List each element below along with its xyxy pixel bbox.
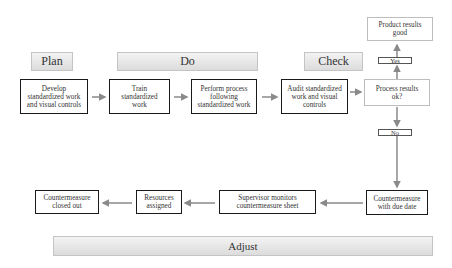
step-audit-label: Audit standardized work and visual contr… bbox=[287, 85, 342, 109]
step-perform-label: Perform process following standardized w… bbox=[194, 85, 254, 109]
decision-process-results-label: Process results ok? bbox=[373, 85, 421, 101]
outcome-product-results-good: Product results good bbox=[367, 17, 433, 41]
outcome-product-results-label: Product results good bbox=[376, 21, 424, 37]
step-resources-assigned-label: Resources assigned bbox=[139, 194, 179, 210]
step-countermeasure-due-date-label: Countermeasure with due date bbox=[369, 195, 425, 211]
decision-no-label: No bbox=[391, 130, 399, 136]
step-train: Train standardized work bbox=[109, 79, 170, 114]
step-countermeasure-closed-out-label: Countermeasure closed out bbox=[40, 194, 94, 210]
decision-yes-tag: Yes bbox=[378, 57, 412, 64]
step-supervisor-monitors-label: Supervisor monitors countermeasure sheet bbox=[230, 194, 305, 210]
decision-yes-label: Yes bbox=[390, 58, 399, 64]
step-train-label: Train standardized work bbox=[118, 85, 161, 109]
decision-no-tag: No bbox=[378, 129, 412, 136]
step-perform: Perform process following standardized w… bbox=[191, 79, 257, 114]
step-audit: Audit standardized work and visual contr… bbox=[281, 79, 348, 114]
step-supervisor-monitors: Supervisor monitors countermeasure sheet bbox=[219, 190, 316, 214]
step-countermeasure-due-date: Countermeasure with due date bbox=[366, 190, 428, 215]
decision-process-results: Process results ok? bbox=[364, 79, 430, 106]
step-develop-label: Develop standardized work and visual con… bbox=[23, 85, 85, 109]
step-resources-assigned: Resources assigned bbox=[136, 190, 182, 214]
step-countermeasure-closed-out: Countermeasure closed out bbox=[35, 190, 99, 214]
step-develop: Develop standardized work and visual con… bbox=[20, 79, 88, 114]
